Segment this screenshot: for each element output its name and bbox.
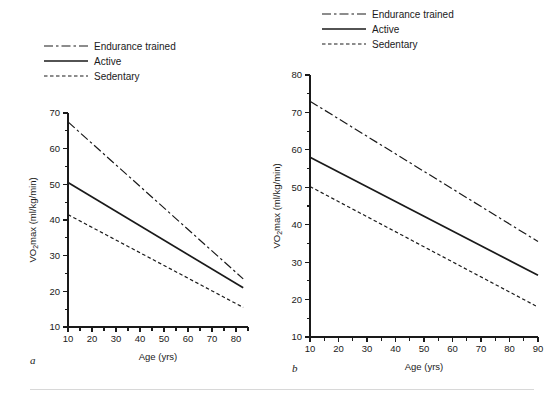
y-tick-label: 10 (291, 331, 302, 342)
panel-a: 102030405060701020304050607080Age (yrs)V… (27, 41, 248, 366)
y-tick-label: 20 (291, 294, 302, 305)
legend-item: Active (44, 56, 122, 67)
x-tick-label: 50 (419, 343, 430, 354)
legend-label: Active (94, 56, 122, 67)
legend-label: Sedentary (94, 71, 140, 82)
panel-b: 1020304050607080102030405060708090Age (y… (271, 9, 543, 374)
y-tick-label: 60 (49, 143, 60, 154)
x-axis-title: Age (yrs) (139, 351, 178, 362)
legend-b: Endurance trainedActiveSedentary (322, 9, 454, 50)
figure-root: 102030405060701020304050607080Age (yrs)V… (0, 0, 556, 402)
svg-text:V̇O2max (ml/kg/min): V̇O2max (ml/kg/min) (271, 163, 283, 248)
series-group (68, 122, 243, 307)
axes (310, 75, 538, 337)
x-tick-label: 70 (207, 333, 218, 344)
x-tick-label: 70 (476, 343, 487, 354)
x-tick-label: 50 (159, 333, 170, 344)
y-axis-ticks: 10203040506070 (49, 107, 68, 332)
legend-item: Endurance trained (322, 9, 454, 20)
x-tick-label: 40 (135, 333, 146, 344)
legend-label: Active (372, 24, 400, 35)
x-tick-label: 80 (504, 343, 515, 354)
x-axis-title: Age (yrs) (405, 361, 444, 372)
y-tick-label: 50 (291, 182, 302, 193)
x-tick-label: 60 (447, 343, 458, 354)
axes (68, 113, 248, 327)
x-tick-label: 20 (87, 333, 98, 344)
x-tick-label: 60 (183, 333, 194, 344)
x-tick-label: 40 (390, 343, 401, 354)
series-line-sedentary (68, 215, 243, 308)
legend-label: Endurance trained (94, 41, 176, 52)
legend-item: Sedentary (44, 71, 140, 82)
y-tick-label: 50 (49, 179, 60, 190)
svg-text:V̇O2max (ml/kg/min): V̇O2max (ml/kg/min) (27, 177, 39, 262)
y-tick-label: 80 (291, 69, 302, 80)
y-axis-ticks: 1020304050607080 (291, 69, 310, 342)
x-tick-label: 20 (333, 343, 344, 354)
series-line-endurance-trained (310, 101, 538, 241)
legend-label: Sedentary (372, 39, 418, 50)
series-group (310, 101, 538, 307)
x-tick-label: 30 (111, 333, 122, 344)
series-line-active (310, 157, 538, 275)
y-tick-label: 70 (49, 107, 60, 118)
series-line-sedentary (310, 187, 538, 308)
x-tick-label: 90 (533, 343, 544, 354)
x-axis-ticks: 102030405060708090 (305, 337, 544, 354)
legend-item: Active (322, 24, 400, 35)
series-line-endurance-trained (68, 122, 243, 279)
y-tick-label: 20 (49, 286, 60, 297)
legend-item: Sedentary (322, 39, 418, 50)
series-line-active (68, 183, 243, 288)
y-axis-title: V̇O2max (ml/kg/min) (271, 163, 283, 248)
legend-item: Endurance trained (44, 41, 176, 52)
y-tick-label: 30 (49, 250, 60, 261)
legend-a: Endurance trainedActiveSedentary (44, 41, 176, 82)
y-tick-label: 60 (291, 144, 302, 155)
y-tick-label: 30 (291, 257, 302, 268)
x-axis-ticks: 1020304050607080 (63, 327, 248, 344)
panel-letter-b: b (292, 362, 298, 374)
x-tick-label: 30 (362, 343, 373, 354)
y-tick-label: 40 (291, 219, 302, 230)
y-axis-title: V̇O2max (ml/kg/min) (27, 177, 39, 262)
y-tick-label: 10 (49, 321, 60, 332)
y-tick-label: 40 (49, 214, 60, 225)
panel-letter-a: a (30, 354, 36, 366)
y-tick-label: 70 (291, 107, 302, 118)
x-tick-label: 10 (305, 343, 316, 354)
chart-canvas: 102030405060701020304050607080Age (yrs)V… (0, 0, 556, 402)
x-tick-label: 10 (63, 333, 74, 344)
legend-label: Endurance trained (372, 9, 454, 20)
footer-divider (30, 389, 534, 390)
x-tick-label: 80 (231, 333, 242, 344)
